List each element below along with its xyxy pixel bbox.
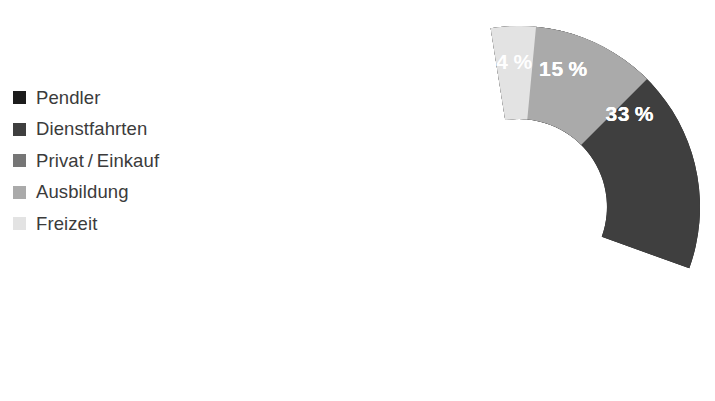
donut-slice-label: 15 % [539, 57, 588, 80]
legend-item-ausbildung[interactable]: Ausbildung [13, 177, 233, 209]
legend-swatch-pendler [13, 91, 26, 104]
legend-item-freizeit[interactable]: Freizeit [13, 208, 233, 240]
legend-item-privat-einkauf[interactable]: Privat / Einkauf [13, 145, 233, 177]
legend-swatch-dienstfahrten [13, 123, 26, 136]
donut-slice-label: 4 % [496, 50, 532, 73]
donut-slice-label: 33 % [605, 102, 654, 125]
legend-item-pendler[interactable]: Pendler [13, 82, 233, 114]
chart-legend: Pendler Dienstfahrten Privat / Einkauf A… [13, 82, 233, 240]
legend-swatch-freizeit [13, 217, 26, 230]
legend-item-label: Ausbildung [36, 183, 129, 202]
donut-chart: 33 %33 %15 %15 %4 % [338, 26, 700, 388]
legend-swatch-ausbildung [13, 186, 26, 199]
legend-item-dienstfahrten[interactable]: Dienstfahrten [13, 114, 233, 146]
legend-swatch-privat-einkauf [13, 154, 26, 167]
donut-chart-svg: 33 %33 %15 %15 %4 % [338, 26, 700, 388]
legend-item-label: Privat / Einkauf [36, 152, 159, 171]
legend-item-label: Dienstfahrten [36, 120, 147, 139]
legend-item-label: Freizeit [36, 215, 97, 234]
chart-page: Pendler Dienstfahrten Privat / Einkauf A… [0, 0, 715, 401]
legend-item-label: Pendler [36, 89, 100, 108]
